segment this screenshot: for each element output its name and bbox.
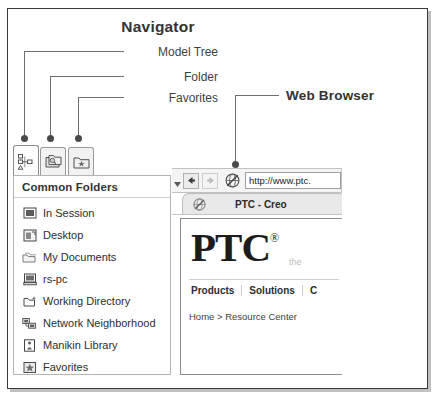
site-nav: Products Solutions C — [191, 285, 317, 296]
callout-label-folder: Folder — [58, 70, 218, 84]
list-item-label: In Session — [43, 207, 94, 219]
tab-model-tree[interactable] — [13, 145, 39, 177]
browser-tab-ptc-creo[interactable]: PTC - Creo — [182, 193, 342, 214]
ptc-logo-row: PTC ® — [191, 227, 279, 275]
url-text: http://www.ptc. — [249, 175, 311, 186]
manikin-library-icon — [22, 338, 37, 352]
site-nav-link-company[interactable]: C — [310, 285, 317, 296]
working-directory-icon — [22, 294, 37, 308]
list-item-desktop[interactable]: Desktop — [14, 224, 170, 246]
leader-horizontal-segment — [78, 97, 124, 98]
ptc-tagline: the — [289, 257, 302, 267]
leader-vertical-segment — [24, 51, 25, 138]
leader-endpoint-dot — [47, 135, 54, 142]
callout-label-favorites: Favorites — [58, 91, 218, 105]
breadcrumb: Home > Resource Center — [189, 311, 297, 322]
browser-tabstrip: PTC - Creo — [172, 193, 342, 215]
list-item-manikin-library[interactable]: Manikin Library — [14, 334, 170, 356]
navigator-panel: Common Folders In Session — [13, 175, 171, 375]
browser-toolbar: http://www.ptc. — [172, 168, 342, 193]
callout-label-model-tree: Model Tree — [58, 45, 218, 59]
leader-endpoint-dot — [75, 135, 82, 142]
site-nav-link-solutions[interactable]: Solutions — [249, 285, 295, 296]
url-input[interactable]: http://www.ptc. — [245, 172, 341, 189]
folder-browser-icon — [44, 154, 63, 171]
list-item-label: My Documents — [43, 251, 116, 263]
list-item-working-directory[interactable]: Working Directory — [14, 290, 170, 312]
network-icon — [22, 316, 37, 330]
leader-horizontal-segment — [50, 76, 124, 77]
favorites-icon — [22, 360, 37, 374]
model-tree-icon — [17, 153, 35, 171]
web-browser-panel: http://www.ptc. PTC - Creo PTC ® — [172, 168, 342, 375]
globe-tab-icon — [191, 197, 207, 212]
computer-icon — [22, 272, 37, 286]
tab-favorites[interactable] — [68, 147, 94, 177]
list-item-label: Network Neighborhood — [43, 317, 156, 329]
globe-icon[interactable] — [222, 172, 242, 190]
browser-page-content: PTC ® the Products Solutions C Home > Re… — [180, 218, 342, 375]
list-item-label: rs-pc — [43, 273, 67, 285]
registered-trademark-symbol: ® — [270, 231, 279, 245]
divider — [189, 279, 339, 280]
chevron-down-icon[interactable] — [172, 169, 183, 192]
list-item-network-neighborhood[interactable]: Network Neighborhood — [14, 312, 170, 334]
list-item-rs-pc[interactable]: rs-pc — [14, 268, 170, 290]
nav-separator — [241, 285, 242, 296]
common-folders-list: In Session Desktop — [14, 199, 170, 374]
favorites-folder-icon — [72, 155, 91, 171]
leader-horizontal-segment — [235, 95, 279, 96]
site-nav-link-products[interactable]: Products — [191, 285, 234, 296]
navigator-title: Navigator — [0, 18, 316, 36]
list-item-in-session[interactable]: In Session — [14, 202, 170, 224]
leader-endpoint-dot — [21, 135, 28, 142]
screenshot-root: Navigator Web Browser Model Tree Folder … — [0, 0, 436, 409]
leader-horizontal-segment — [24, 51, 124, 52]
list-item-label: Manikin Library — [43, 339, 118, 351]
forward-button[interactable] — [202, 173, 218, 189]
nav-separator — [302, 285, 303, 296]
leader-vertical-segment — [50, 76, 51, 138]
common-folders-header: Common Folders — [14, 176, 170, 198]
documents-folder-icon — [22, 250, 37, 264]
ptc-logo: PTC — [191, 227, 270, 268]
monitor-icon — [22, 206, 37, 220]
leader-endpoint-dot — [232, 161, 239, 168]
desktop-icon — [22, 228, 37, 242]
list-item-favorites[interactable]: Favorites — [14, 356, 170, 378]
tab-folder[interactable] — [40, 147, 66, 177]
leader-vertical-segment — [78, 97, 79, 138]
back-button[interactable] — [183, 173, 199, 189]
web-browser-title: Web Browser — [286, 88, 374, 103]
browser-tab-title: PTC - Creo — [235, 199, 287, 210]
navigator-tabstrip — [13, 144, 97, 177]
list-item-label: Working Directory — [43, 295, 130, 307]
leader-vertical-segment — [235, 95, 236, 163]
list-item-label: Favorites — [43, 361, 88, 373]
list-item-label: Desktop — [43, 229, 83, 241]
list-item-my-documents[interactable]: My Documents — [14, 246, 170, 268]
